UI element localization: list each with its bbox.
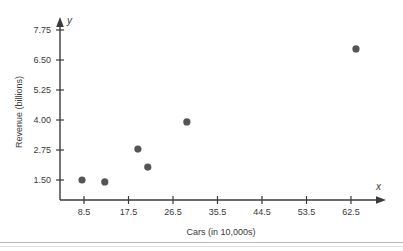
scatter-plot-figure: 1.502.754.005.256.507.75 8.517.526.535.5… bbox=[0, 0, 403, 251]
data-point bbox=[183, 118, 190, 125]
y-axis-variable-label: y bbox=[66, 15, 73, 26]
data-point bbox=[101, 178, 108, 185]
page-divider-rule bbox=[0, 242, 403, 243]
y-axis-title: Revenue (billions) bbox=[14, 76, 24, 148]
x-tick-label: 8.5 bbox=[78, 207, 91, 217]
data-point bbox=[352, 45, 359, 52]
x-tick-label: 53.5 bbox=[298, 207, 316, 217]
x-axis-title: Cars (in 10,000s) bbox=[186, 227, 255, 237]
y-tick-label: 7.75 bbox=[33, 25, 51, 35]
page-divider-rule-secondary bbox=[0, 246, 403, 247]
data-point bbox=[144, 163, 151, 170]
x-tick-label: 44.5 bbox=[253, 207, 271, 217]
y-tick-label: 1.50 bbox=[33, 175, 51, 185]
x-axis-variable-label: x bbox=[375, 181, 382, 192]
y-tick-label: 4.00 bbox=[33, 115, 51, 125]
y-tick-label: 2.75 bbox=[33, 145, 51, 155]
y-tick-label: 6.50 bbox=[33, 55, 51, 65]
scatter-plot-canvas: 1.502.754.005.256.507.75 8.517.526.535.5… bbox=[0, 0, 403, 251]
x-tick-label: 35.5 bbox=[209, 207, 227, 217]
y-tick-label: 5.25 bbox=[33, 85, 51, 95]
data-point bbox=[134, 145, 141, 152]
x-tick-label: 62.5 bbox=[342, 207, 360, 217]
data-point bbox=[78, 176, 85, 183]
x-tick-label: 26.5 bbox=[164, 207, 182, 217]
x-tick-label: 17.5 bbox=[120, 207, 138, 217]
